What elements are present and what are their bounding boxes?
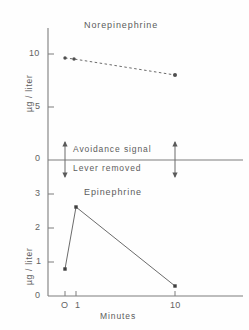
epinephrine-point-1 bbox=[74, 205, 77, 208]
x-axis-title: Minutes bbox=[100, 311, 136, 321]
norepinephrine-point-0 bbox=[63, 56, 66, 59]
norepinephrine-line bbox=[65, 58, 175, 75]
lower-ytick-label-2: 2 bbox=[35, 222, 40, 232]
lower-ytick-label-3: 3 bbox=[35, 188, 40, 198]
lower-y-axis-title: µg / liter bbox=[24, 248, 34, 285]
lower-ytick-label-1: 1 bbox=[36, 256, 41, 266]
xtick-label-1: 1 bbox=[75, 300, 80, 310]
upper-y-axis-title: µg / liter bbox=[24, 75, 34, 112]
upper-ytick-label-10: 10 bbox=[29, 48, 39, 58]
lever-removed-label: Lever removed bbox=[73, 163, 141, 173]
norepinephrine-point-1 bbox=[72, 57, 75, 60]
epinephrine-series-label: Epinephrine bbox=[84, 187, 142, 197]
chart-figure: Norepinephrine 10 5 0 µg / liter Avoidan… bbox=[0, 0, 249, 330]
upper-ytick-label-5: 5 bbox=[35, 101, 40, 111]
norepinephrine-series-label: Norepinephrine bbox=[84, 20, 158, 30]
epinephrine-point-10 bbox=[173, 284, 176, 287]
epinephrine-line bbox=[65, 207, 175, 286]
xtick-label-0: O bbox=[61, 300, 68, 310]
lower-ytick-label-0: 0 bbox=[35, 290, 40, 300]
xtick-label-10: 10 bbox=[170, 300, 180, 310]
upper-ytick-label-0: 0 bbox=[35, 153, 40, 163]
avoidance-signal-label: Avoidance signal bbox=[73, 144, 152, 154]
epinephrine-point-0 bbox=[63, 267, 66, 270]
norepinephrine-point-10 bbox=[173, 73, 177, 77]
